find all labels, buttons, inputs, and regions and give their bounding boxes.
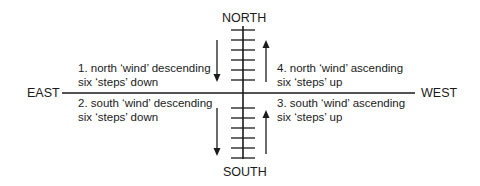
west-label: WEST	[421, 86, 457, 100]
quadrant-3-line-2: six ‘steps’ up	[277, 110, 405, 124]
quadrant-3-caption: 3. south ‘wind’ ascending six ‘steps’ up	[277, 96, 405, 124]
quadrant-2-line-1: 2. south ‘wind’ descending	[78, 96, 212, 110]
diagram-lines	[0, 0, 480, 186]
quadrant-1-caption: 1. north ‘wind’ descending six ‘steps’ d…	[78, 61, 211, 89]
down-arrow-icon	[214, 108, 221, 156]
down-arrow-icon	[214, 40, 221, 82]
south-label: SOUTH	[223, 165, 267, 179]
up-arrow-icon	[263, 110, 270, 154]
quadrant-4-line-1: 4. north ‘wind’ ascending	[277, 61, 403, 75]
quadrant-2-line-2: six ‘steps’ down	[78, 110, 212, 124]
quadrant-1-line-1: 1. north ‘wind’ descending	[78, 61, 211, 75]
north-label: NORTH	[222, 11, 266, 25]
compass-wind-diagram: NORTH SOUTH EAST WEST 1. north ‘wind’ de…	[0, 0, 480, 186]
quadrant-4-caption: 4. north ‘wind’ ascending six ‘steps’ up	[277, 61, 403, 89]
quadrant-1-line-2: six ‘steps’ down	[78, 75, 211, 89]
up-arrow-icon	[263, 40, 270, 82]
east-label: EAST	[27, 86, 60, 100]
quadrant-3-line-1: 3. south ‘wind’ ascending	[277, 96, 405, 110]
quadrant-2-caption: 2. south ‘wind’ descending six ‘steps’ d…	[78, 96, 212, 124]
quadrant-4-line-2: six ‘steps’ up	[277, 75, 403, 89]
